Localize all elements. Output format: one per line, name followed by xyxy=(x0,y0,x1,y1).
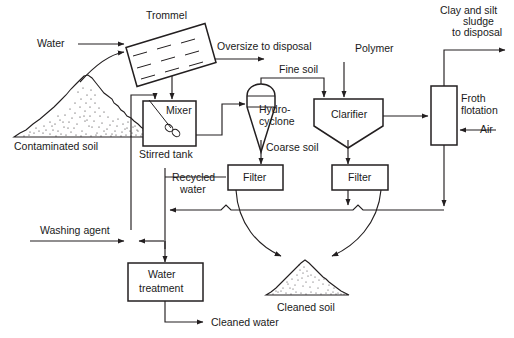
mixer-to-hydrocyclone xyxy=(196,104,245,135)
washing-agent-stream: Washing agent xyxy=(30,224,124,241)
cleaned-soil-pile: Cleaned soil xyxy=(266,260,349,313)
polymer-label: Polymer xyxy=(355,42,394,54)
filter-fine-cake-curve xyxy=(332,190,381,256)
water-inlet-stream: Water xyxy=(37,37,124,49)
froth-flotation-label-line2: flotation xyxy=(461,104,498,116)
filter-coarse-label: Filter xyxy=(243,171,267,183)
water-treatment-label-line1: Water xyxy=(148,268,176,280)
water-label: Water xyxy=(37,37,65,49)
air-label: Air xyxy=(480,123,493,135)
hydrocyclone-label-line1: Hydro- xyxy=(259,103,291,115)
sludge-stream: Clay and silt sludge to disposal xyxy=(440,4,505,86)
filter-coarse-cake-curve xyxy=(236,190,281,256)
cleaned-water-label: Cleaned water xyxy=(211,316,279,328)
polymer-stream: Polymer xyxy=(344,42,394,97)
sludge-label-line3: to disposal xyxy=(452,26,502,38)
air-stream: Air xyxy=(460,123,496,135)
water-treatment-unit: Water treatment xyxy=(128,263,203,301)
clarifier-label: Clarifier xyxy=(331,108,368,120)
fine-soil-label: Fine soil xyxy=(279,63,318,75)
washing-agent-label: Washing agent xyxy=(40,224,110,236)
water-treatment-label-line2: treatment xyxy=(139,282,183,294)
trommel-label: Trommel xyxy=(146,9,187,21)
process-flow-diagram: Contaminated soil Trommel Water Oversize… xyxy=(0,0,514,338)
froth-flotation-unit: Froth flotation xyxy=(431,86,498,145)
contaminated-soil-label: Contaminated soil xyxy=(14,140,98,152)
filter-fine-unit: Filter xyxy=(332,165,388,190)
oversize-label: Oversize to disposal xyxy=(217,40,312,52)
stirred-tank-label: Stirred tank xyxy=(139,148,193,160)
recycled-water-label-line2: water xyxy=(179,183,206,195)
mixer-label: Mixer xyxy=(166,104,192,116)
cleaned-water-stream: Cleaned water xyxy=(165,301,279,328)
coarse-soil-stream: Coarse soil xyxy=(261,140,319,164)
filter-fine-label: Filter xyxy=(348,171,372,183)
trommel-unit: Trommel xyxy=(126,9,216,87)
oversize-stream: Oversize to disposal xyxy=(215,40,312,59)
froth-flotation-label-line1: Froth xyxy=(461,92,486,104)
contaminated-soil-pile: Contaminated soil xyxy=(14,75,156,152)
cleaned-soil-label: Cleaned soil xyxy=(277,301,335,313)
coarse-soil-label: Coarse soil xyxy=(266,141,319,153)
flow-diagram-canvas: Contaminated soil Trommel Water Oversize… xyxy=(0,0,514,338)
mixer-unit: Mixer Stirred tank xyxy=(139,100,196,160)
hydrocyclone-label-line2: cyclone xyxy=(259,115,295,127)
filter-coarse-unit: Filter xyxy=(228,165,283,190)
